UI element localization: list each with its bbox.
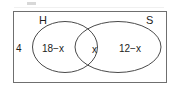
scan-artifact <box>27 2 36 5</box>
venn-diagram-screenshot: H S 4 18−x x 12−x <box>0 0 179 91</box>
set-label-s: S <box>146 15 153 26</box>
region-label-intersection: x <box>92 45 97 55</box>
set-label-h: H <box>39 15 47 26</box>
venn-circles <box>13 11 167 83</box>
region-label-outside: 4 <box>16 44 22 54</box>
scan-artifact-line <box>14 7 164 8</box>
region-label-h-only: 18−x <box>42 44 64 54</box>
region-label-s-only: 12−x <box>119 44 141 54</box>
set-s-ellipse <box>75 22 161 73</box>
